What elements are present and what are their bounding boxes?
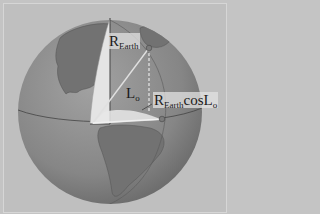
radius-label-subscript: Earth xyxy=(119,41,139,51)
radius-label: REarth xyxy=(108,34,140,51)
projected-label-cos: cos xyxy=(184,92,204,108)
projected-label-subscript: Earth xyxy=(164,100,184,110)
radius-label-main: R xyxy=(109,33,119,49)
angle-label: Lo xyxy=(126,86,140,103)
angle-label-subscript: o xyxy=(135,93,140,103)
projected-label-main: R xyxy=(154,92,164,108)
projected-radius-label: REarthcosLo xyxy=(153,93,218,110)
projected-label-angle-subscript: o xyxy=(213,100,218,110)
latitude-point xyxy=(146,45,152,51)
equator-point xyxy=(159,116,165,122)
projected-label-angle: L xyxy=(204,92,213,108)
angle-label-main: L xyxy=(126,85,135,101)
